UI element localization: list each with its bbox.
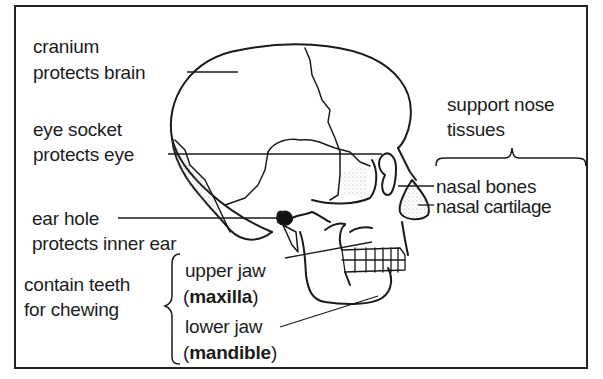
term-maxilla: maxilla: [189, 286, 252, 307]
label-ear-hole-name: ear hole: [32, 206, 99, 231]
label-cranium-function: protects brain: [33, 60, 145, 85]
label-mandible: (mandible): [183, 340, 277, 365]
label-nasal-cartilage: nasal cartilage: [436, 194, 551, 219]
label-upper-jaw: upper jaw: [185, 258, 266, 283]
label-eye-socket-name: eye socket: [33, 117, 122, 142]
label-nose-function-2: tissues: [447, 117, 505, 142]
term-mandible: mandible: [189, 342, 271, 363]
label-jaw-group-function-1: contain teeth: [24, 272, 130, 297]
label-nose-function-1: support nose: [447, 92, 554, 117]
label-eye-socket-function: protects eye: [33, 142, 134, 167]
label-jaw-group-function-2: for chewing: [24, 297, 119, 322]
paren-close: ): [252, 286, 258, 307]
brace-nose: [436, 148, 586, 166]
brace-jaw: [165, 254, 180, 364]
leader-lower-jaw: [280, 296, 378, 327]
label-lower-jaw: lower jaw: [185, 314, 262, 339]
label-ear-hole-function: protects inner ear: [32, 231, 176, 256]
paren-close: ): [271, 342, 277, 363]
label-maxilla: (maxilla): [183, 284, 258, 309]
label-cranium-name: cranium: [33, 34, 99, 59]
